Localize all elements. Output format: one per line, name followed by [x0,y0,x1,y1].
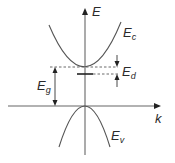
donor-energy-label: Ed [122,64,137,81]
arrow-up-icon [53,67,58,73]
e-axis-arrow-icon [82,8,88,15]
band-gap-arrow [53,67,58,106]
e-axis [82,8,88,155]
conduction-band-label: Ec [123,25,137,42]
donor-energy-arrows [115,55,120,87]
arrow-down-icon [53,100,58,106]
k-axis-label: k [155,111,163,126]
arrow-down-icon [115,61,120,67]
band-gap-label: Eg [37,78,51,95]
band-diagram: E k Ec Ed Eg Ev [0,0,175,163]
valence-band-label: Ev [111,128,125,145]
arrow-up-icon [115,74,120,80]
e-axis-label: E [92,4,101,19]
k-axis-arrow-icon [154,103,161,109]
